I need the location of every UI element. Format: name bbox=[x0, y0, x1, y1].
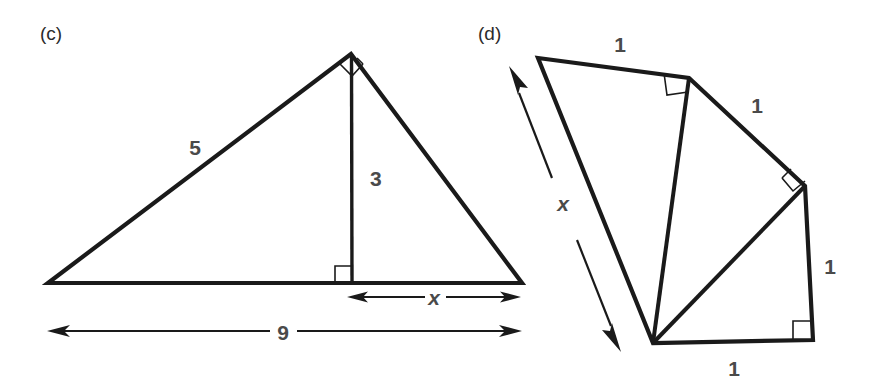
figure-d-arrow-x-head-lower bbox=[602, 323, 621, 352]
figure-page: (c) 5 3 x bbox=[0, 0, 875, 392]
figure-d-arrow-x-upper-shaft bbox=[519, 93, 552, 178]
figure-c-foot-right-angle-icon bbox=[335, 266, 351, 283]
figure-c-label-base-9: 9 bbox=[277, 321, 289, 344]
figure-d-label-side-1-bottom: 1 bbox=[728, 357, 740, 380]
figure-c-caption: (c) bbox=[40, 23, 62, 44]
figure-d-spoke-to-top-right bbox=[653, 78, 689, 343]
figure-d-bottom-right-angle-icon bbox=[793, 321, 812, 340]
figure-c-label-x: x bbox=[427, 286, 441, 309]
figure-d-outer-outline bbox=[538, 58, 813, 343]
figure-d-arrow-x-head-upper bbox=[509, 66, 528, 95]
figure-d-label-side-1-top: 1 bbox=[614, 33, 626, 56]
figure-d-arrow-x-lower-shaft bbox=[577, 240, 611, 326]
figure-d-label-x: x bbox=[556, 192, 570, 215]
figure-d-dimension-arrow-x: x bbox=[509, 66, 621, 352]
figure-d-spoke-to-mid-right bbox=[653, 186, 805, 343]
figure-c-label-altitude-3: 3 bbox=[370, 167, 382, 190]
figure-d-group: (d) 1 1 1 1 bbox=[478, 23, 836, 380]
figure-d-label-side-1-right: 1 bbox=[824, 255, 836, 278]
figure-d-label-side-1-upper-right: 1 bbox=[751, 94, 763, 117]
figure-c-dimension-arrow-x: x bbox=[347, 286, 521, 309]
figure-c-altitude-line bbox=[352, 56, 353, 283]
figure-c-dimension-arrow-9: 9 bbox=[47, 321, 522, 344]
figure-c-triangle-outline bbox=[48, 54, 522, 283]
figure-c-label-side-5: 5 bbox=[189, 136, 201, 159]
figure-c-group: (c) 5 3 x bbox=[40, 23, 522, 344]
geometry-figures-canvas: (c) 5 3 x bbox=[0, 0, 875, 392]
figure-d-caption: (d) bbox=[478, 23, 501, 44]
